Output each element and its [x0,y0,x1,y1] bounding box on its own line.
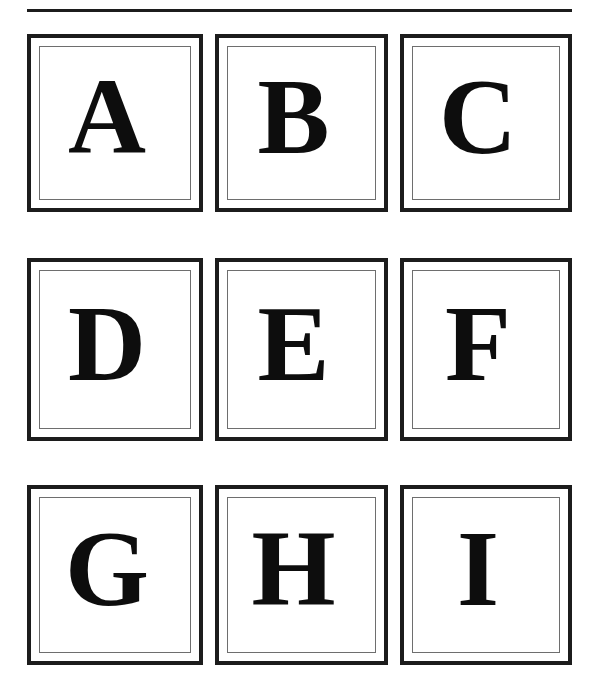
card-inner-frame: A [39,46,191,200]
card-letter: D [40,271,190,428]
card-inner-frame: G [39,497,191,653]
letter-card[interactable]: F [400,258,572,441]
card-inner-frame: I [412,497,560,653]
card-letter: C [413,47,559,199]
letter-card[interactable]: H [215,485,388,665]
card-letter: E [228,271,375,428]
letter-card[interactable]: E [215,258,388,441]
card-letter: F [413,271,559,428]
letter-card[interactable]: A [27,34,203,212]
letter-card[interactable]: D [27,258,203,441]
card-letter: H [228,498,375,652]
letter-card[interactable]: C [400,34,572,212]
card-inner-frame: E [227,270,376,429]
card-letter: B [228,47,375,199]
card-inner-frame: H [227,497,376,653]
letter-card[interactable]: G [27,485,203,665]
letter-card[interactable]: B [215,34,388,212]
letter-card-grid: A B C D E F [0,0,595,691]
card-letter: I [413,498,559,652]
card-letter: G [40,498,190,652]
card-letter: A [40,47,190,199]
card-inner-frame: F [412,270,560,429]
page-root: A B C D E F [0,0,595,691]
card-inner-frame: D [39,270,191,429]
card-inner-frame: B [227,46,376,200]
letter-card[interactable]: I [400,485,572,665]
card-inner-frame: C [412,46,560,200]
